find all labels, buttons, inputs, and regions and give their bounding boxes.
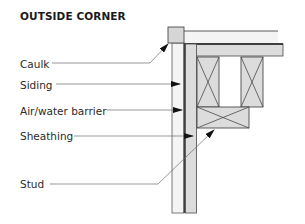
vertical-siding bbox=[172, 43, 184, 213]
top-siding-band bbox=[184, 31, 278, 43]
stud-corner-block bbox=[197, 107, 249, 128]
vertical-sheathing bbox=[186, 44, 197, 213]
wall-corner-drawing bbox=[0, 0, 305, 224]
stud-right bbox=[241, 57, 263, 107]
stud-left bbox=[197, 57, 219, 107]
caulk-bead bbox=[168, 27, 184, 43]
leader-caulk bbox=[52, 44, 168, 63]
top-sheathing-band bbox=[184, 44, 283, 56]
